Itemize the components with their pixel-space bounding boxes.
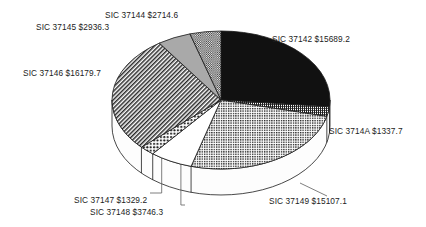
pie-chart: SIC 37144 $2714.6 SIC 37145 $2936.3 SIC … [0, 0, 426, 227]
pie-slices [112, 31, 330, 169]
pie-chart-svg [0, 0, 426, 227]
slice-label-sic-3714a: SIC 3714A $1337.7 [329, 126, 403, 136]
slice-label-sic-37145: SIC 37145 $2936.3 [36, 22, 109, 32]
slice-label-sic-37147: SIC 37147 $1329.2 [74, 195, 147, 205]
slice-label-sic-37148: SIC 37148 $3746.3 [90, 207, 163, 217]
slice-label-sic-37144: SIC 37144 $2714.6 [105, 10, 178, 20]
slice-label-sic-37142: SIC 37142 $15689.2 [272, 34, 350, 44]
slice-label-sic-37149: SIC 37149 $15107.1 [269, 196, 347, 206]
slice-label-sic-37146: SIC 37146 $16179.7 [23, 68, 101, 78]
leader-line-s37149 [300, 183, 327, 196]
